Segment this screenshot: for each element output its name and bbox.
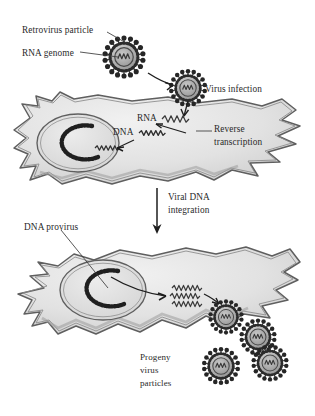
label-viral-dna-line2: integration [168, 205, 209, 216]
label-progeny-line3: particles [140, 378, 171, 389]
label-virus-infection: Virus infection [205, 84, 262, 95]
label-reverse-transcription-line2: transcription [214, 137, 262, 148]
figure-canvas: Retrovirus particle RNA genome Virus inf… [0, 0, 315, 416]
upper-nucleus [37, 114, 119, 172]
progeny-virus-particle-4 [202, 347, 240, 385]
label-rna-genome: RNA genome [22, 48, 74, 59]
infection-arrow [148, 73, 173, 90]
label-rna: RNA [137, 113, 157, 124]
label-retrovirus-particle: Retrovirus particle [22, 25, 93, 36]
lower-nucleus [60, 260, 146, 320]
viral-dna-integration-arrow [153, 188, 162, 234]
label-dna: DNA [113, 127, 133, 138]
label-viral-dna-line1: Viral DNA [168, 192, 210, 203]
label-reverse-transcription-line1: Reverse [214, 124, 245, 135]
label-progeny-line1: Progeny [140, 352, 171, 363]
label-progeny-line2: virus [140, 365, 159, 376]
label-dna-provirus: DNA provirus [24, 222, 78, 233]
